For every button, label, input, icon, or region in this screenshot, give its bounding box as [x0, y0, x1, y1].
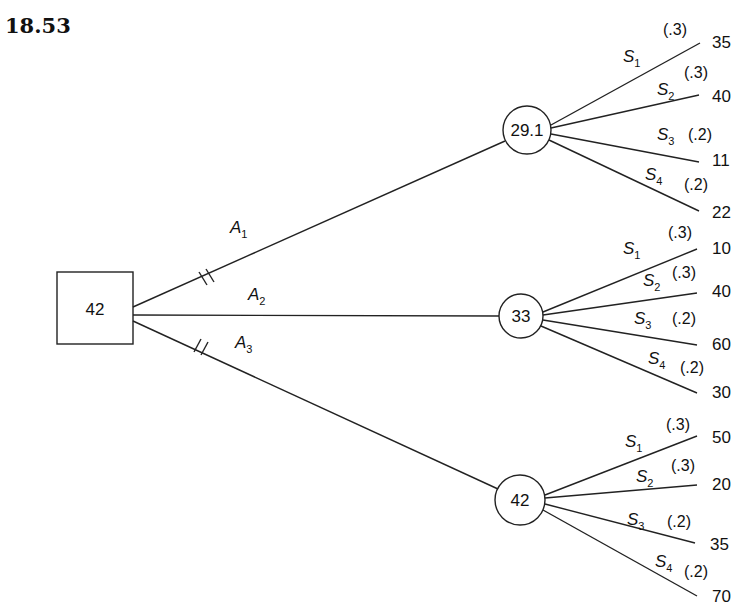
svg-text:70: 70 — [712, 587, 731, 606]
svg-text:(.3): (.3) — [671, 457, 695, 474]
svg-text:S4: S4 — [645, 165, 662, 187]
svg-text:20: 20 — [712, 475, 731, 494]
svg-text:(.2): (.2) — [667, 513, 691, 530]
svg-text:S2: S2 — [636, 467, 653, 489]
svg-text:S2: S2 — [657, 80, 674, 102]
svg-text:(.3): (.3) — [666, 416, 690, 433]
svg-text:60: 60 — [712, 335, 731, 354]
chance-value-1: 29.1 — [510, 121, 543, 140]
svg-text:(.2): (.2) — [688, 126, 712, 143]
svg-text:(.3): (.3) — [668, 224, 692, 241]
svg-text:S4: S4 — [648, 349, 665, 371]
svg-text:35: 35 — [712, 33, 731, 52]
svg-text:S1: S1 — [625, 432, 642, 454]
svg-text:S1: S1 — [623, 239, 640, 261]
svg-text:S3: S3 — [627, 510, 644, 532]
svg-text:(.3): (.3) — [684, 64, 708, 81]
branch-a2 — [133, 315, 499, 316]
decision-value: 42 — [86, 300, 105, 319]
svg-text:S4: S4 — [655, 552, 672, 574]
svg-text:(.2): (.2) — [680, 359, 704, 376]
svg-text:40: 40 — [712, 87, 731, 106]
svg-text:22: 22 — [712, 203, 731, 222]
svg-text:S3: S3 — [657, 125, 674, 147]
svg-text:(.2): (.2) — [672, 310, 696, 327]
svg-text:50: 50 — [712, 428, 731, 447]
svg-text:S1: S1 — [623, 47, 640, 69]
branch-a1 — [133, 141, 505, 307]
svg-text:(.2): (.2) — [684, 176, 708, 193]
chance-value-2: 33 — [512, 307, 531, 326]
alt-label-3: A3 — [234, 333, 252, 355]
svg-text:40: 40 — [712, 282, 731, 301]
svg-text:(.3): (.3) — [663, 21, 687, 38]
svg-text:30: 30 — [712, 383, 731, 402]
decision-tree: 42 29.1 33 42 A1 A2 A3 S1 (.3) 35 S2 (.3… — [0, 0, 747, 612]
svg-text:S2: S2 — [643, 271, 660, 293]
branch-a3 — [133, 321, 498, 489]
chance-value-3: 42 — [511, 491, 530, 510]
svg-text:11: 11 — [712, 151, 730, 170]
svg-text:(.3): (.3) — [672, 264, 696, 281]
svg-text:10: 10 — [712, 239, 731, 258]
svg-text:S3: S3 — [634, 309, 651, 331]
svg-text:35: 35 — [710, 535, 729, 554]
alt-label-1: A1 — [229, 218, 247, 240]
alt-label-2: A2 — [247, 285, 265, 307]
svg-text:(.2): (.2) — [684, 563, 708, 580]
